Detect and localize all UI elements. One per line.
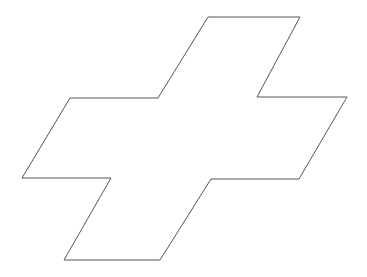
diagram-canvas bbox=[0, 0, 367, 277]
sheared-cross-outline bbox=[22, 17, 347, 260]
